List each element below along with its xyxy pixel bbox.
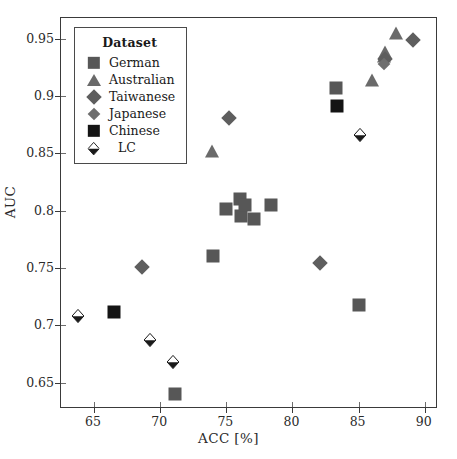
x-tick-inner: [359, 402, 360, 407]
y-axis-tick-labels: 0.650.70.750.80.850.90.95: [8, 17, 54, 408]
data-point-taiwanese: [134, 259, 150, 275]
data-point-australian: [205, 145, 219, 158]
legend-items: GermanAustralianTaiwaneseJapaneseChinese…: [84, 54, 175, 156]
legend-marker-australian-icon: [84, 71, 104, 88]
data-point-australian: [365, 73, 379, 86]
data-point-german: [168, 388, 181, 401]
legend-label: Japanese: [104, 106, 166, 121]
data-point-german: [352, 298, 365, 311]
data-point-german: [234, 210, 247, 223]
legend-item-lc[interactable]: LC: [84, 139, 175, 156]
data-point-australian: [389, 26, 403, 39]
y-tick-label: 0.9: [34, 87, 54, 102]
data-point-lc: [143, 332, 156, 346]
x-axis-title: ACC [%]: [0, 430, 457, 446]
x-tick-label: 85: [350, 414, 366, 429]
y-tick-inner: [61, 383, 66, 384]
legend-label: Chinese: [104, 123, 160, 138]
legend-item-japanese[interactable]: Japanese: [84, 105, 175, 122]
legend-item-australian[interactable]: Australian: [84, 71, 175, 88]
legend-item-german[interactable]: German: [84, 54, 175, 71]
data-point-chinese: [331, 100, 344, 113]
y-tick-inner: [61, 153, 66, 154]
legend-item-chinese[interactable]: Chinese: [84, 122, 175, 139]
x-tick-label: 65: [85, 414, 101, 429]
y-tick-inner: [61, 325, 66, 326]
legend-label: Australian: [104, 72, 174, 87]
x-tick-inner: [292, 402, 293, 407]
y-tick-inner: [61, 211, 66, 212]
y-tick-label: 0.75: [26, 259, 54, 274]
y-tick-label: 0.95: [26, 30, 54, 45]
legend-label: German: [104, 55, 160, 70]
data-point-german: [248, 212, 261, 225]
y-tick-label: 0.8: [34, 202, 54, 217]
x-tick-inner: [226, 402, 227, 407]
legend-item-taiwanese[interactable]: Taiwanese: [84, 88, 175, 105]
legend: Dataset GermanAustralianTaiwaneseJapanes…: [74, 27, 187, 164]
data-point-taiwanese: [405, 32, 421, 48]
data-point-german: [207, 250, 220, 263]
x-tick-label: 90: [416, 414, 432, 429]
y-tick-inner: [61, 268, 66, 269]
x-tick-label: 80: [284, 414, 300, 429]
data-point-german: [238, 198, 251, 211]
y-tick-inner: [61, 96, 66, 97]
legend-marker-lc-icon: [84, 139, 104, 156]
data-point-lc: [353, 127, 366, 141]
legend-marker-german-icon: [84, 54, 104, 71]
data-point-taiwanese: [221, 110, 237, 126]
x-tick-inner: [94, 402, 95, 407]
data-point-german: [220, 203, 233, 216]
data-point-german: [265, 198, 278, 211]
legend-label: LC: [104, 140, 136, 155]
x-tick-label: 75: [217, 414, 233, 429]
data-point-german: [330, 81, 343, 94]
data-point-lc: [167, 354, 180, 368]
legend-label: Taiwanese: [104, 89, 175, 104]
y-tick-label: 0.65: [26, 374, 54, 389]
legend-marker-chinese-icon: [84, 122, 104, 139]
y-tick-inner: [61, 39, 66, 40]
y-tick-label: 0.85: [26, 145, 54, 160]
x-tick-inner: [425, 402, 426, 407]
y-tick-label: 0.7: [34, 317, 54, 332]
data-point-lc: [72, 308, 85, 322]
scatter-plot-figure: AUC 0.650.70.750.80.850.90.95 6570758085…: [0, 0, 457, 459]
legend-marker-japanese-icon: [84, 105, 104, 122]
x-tick-label: 70: [151, 414, 167, 429]
legend-marker-taiwanese-icon: [84, 88, 104, 105]
legend-title: Dataset: [84, 35, 175, 50]
data-point-taiwanese: [312, 256, 328, 272]
data-point-chinese: [107, 305, 120, 318]
x-tick-inner: [160, 402, 161, 407]
